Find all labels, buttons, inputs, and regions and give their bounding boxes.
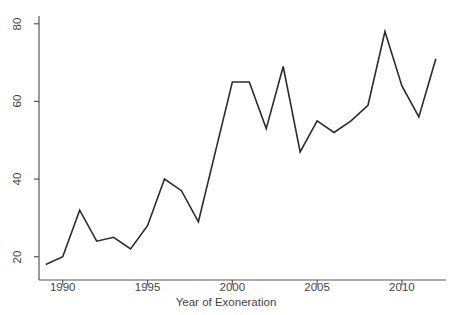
exonerations-line-chart: Exonerations 20406080 199019952000200520… <box>0 0 452 315</box>
x-tick-label: 2000 <box>207 281 257 293</box>
x-axis-title: Year of Exoneration <box>0 296 452 308</box>
plot-area <box>0 0 452 315</box>
y-tick-marks <box>34 24 39 257</box>
exonerations-data-line <box>46 32 436 265</box>
x-tick-label: 2010 <box>377 281 427 293</box>
x-tick-label: 1995 <box>123 281 173 293</box>
x-tick-label: 1990 <box>38 281 88 293</box>
x-tick-label: 2005 <box>292 281 342 293</box>
